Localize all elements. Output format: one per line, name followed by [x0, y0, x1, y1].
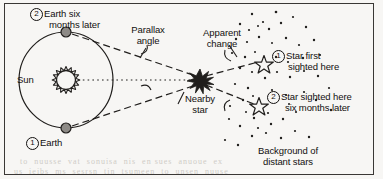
- nearby-star-glyph: [187, 69, 214, 94]
- label-earth-six-months-later-line1: Earth six: [44, 8, 80, 19]
- badge-earth-position-1: 1: [26, 137, 39, 150]
- badge-earth-position-2: 2: [30, 8, 43, 21]
- label-nearby-star-line1: Nearby: [176, 93, 224, 104]
- showthrough-text-row1: to nuusse vat sonuisa nis en sues anuoue…: [20, 157, 223, 166]
- label-parallax-angle-line1: Parallax: [124, 24, 172, 35]
- earth-position-1-marker: [61, 123, 71, 133]
- label-star-first-sighted-line2: sighted here: [288, 61, 339, 72]
- label-background-distant-stars-line2: distant stars: [243, 156, 333, 167]
- label-star-first-sighted-line1: Star first: [286, 50, 320, 61]
- sun-icon: [52, 67, 80, 94]
- badge-star-position-2: 2: [267, 91, 280, 104]
- label-star-sighted-later-line1: Star sighted here: [281, 91, 352, 102]
- angle-arc-upper-left: [141, 45, 147, 54]
- label-earth: Earth: [40, 137, 62, 148]
- label-apparent-change-line2: change: [198, 38, 246, 49]
- showthrough-text-row2: us ieibs ms sesrsn tin tsumeen to unsen …: [14, 167, 229, 176]
- angle-arc-upper-right: [225, 50, 231, 61]
- angle-arc-lower-left: [141, 85, 151, 90]
- label-nearby-star-line2: star: [176, 104, 224, 115]
- projection-line-to-star-1: [206, 62, 258, 76]
- star-position-2-glyph: [250, 98, 269, 116]
- label-sun: Sun: [17, 74, 34, 85]
- star-position-1-glyph: [255, 56, 274, 74]
- label-parallax-angle-line2: angle: [124, 35, 172, 46]
- badge-star-position-1: 1: [272, 50, 285, 63]
- label-star-sighted-later-line2: six months later: [285, 102, 350, 113]
- label-background-distant-stars-line1: Background of: [243, 145, 333, 156]
- label-apparent-change-line1: Apparent: [198, 27, 246, 38]
- parallax-angle-leader-line: [140, 48, 146, 58]
- stellar-parallax-figure: to nuusse vat sonuisa nis en sues anuoue…: [0, 0, 383, 179]
- label-earth-six-months-later-line2: months later: [49, 19, 100, 30]
